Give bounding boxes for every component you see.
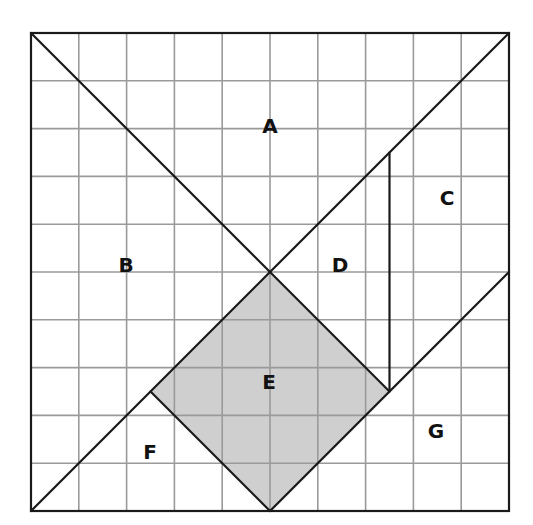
label-a: A: [262, 114, 278, 138]
label-c: C: [440, 186, 455, 210]
tangram-figure: A B C D E F G: [0, 0, 533, 525]
label-f: F: [143, 440, 157, 464]
label-b: B: [118, 253, 133, 277]
diagonal-topleft-to-center: [31, 33, 270, 272]
label-e: E: [262, 370, 276, 394]
label-g: G: [428, 419, 444, 443]
label-d: D: [332, 253, 349, 277]
